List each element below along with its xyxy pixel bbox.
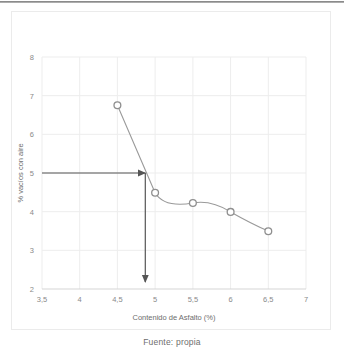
x-tick-label: 7 bbox=[304, 295, 308, 304]
y-tick-label: 2 bbox=[30, 285, 34, 294]
data-point bbox=[227, 209, 234, 216]
y-tick-label: 8 bbox=[30, 53, 34, 62]
x-tick-label: 4,5 bbox=[112, 295, 122, 304]
figure-panel: 8 7 6 5 4 3 2 3,5 4 4,5 5 5,5 6 6,5 7 Co… bbox=[11, 11, 331, 330]
x-tick-label: 6 bbox=[229, 295, 233, 304]
x-tick-label: 5,5 bbox=[188, 295, 198, 304]
data-point bbox=[152, 189, 159, 196]
data-point bbox=[190, 200, 197, 207]
line-chart: 8 7 6 5 4 3 2 3,5 4 4,5 5 5,5 6 6,5 7 Co… bbox=[12, 12, 332, 331]
y-tick-label: 7 bbox=[30, 92, 34, 101]
x-axis-title: Contenido de Asfalto (%) bbox=[133, 313, 216, 322]
y-tick-label: 4 bbox=[30, 208, 34, 217]
x-tick-label: 6,5 bbox=[263, 295, 273, 304]
x-tick-label: 5 bbox=[153, 295, 157, 304]
y-tick-label: 6 bbox=[30, 130, 34, 139]
data-point bbox=[265, 228, 272, 235]
y-axis-title: % vacíos con aire bbox=[16, 143, 25, 202]
x-tick-label: 4 bbox=[78, 295, 82, 304]
y-tick-label: 3 bbox=[30, 246, 34, 255]
data-point bbox=[114, 102, 121, 109]
figure-caption: Fuente: propia bbox=[0, 337, 344, 347]
y-tick-label: 5 bbox=[30, 169, 34, 178]
x-tick-labels: 3,5 4 4,5 5 5,5 6 6,5 7 bbox=[37, 295, 308, 304]
x-tick-label: 3,5 bbox=[37, 295, 47, 304]
y-tick-labels: 8 7 6 5 4 3 2 bbox=[30, 53, 34, 294]
top-divider-rule bbox=[0, 1, 344, 3]
